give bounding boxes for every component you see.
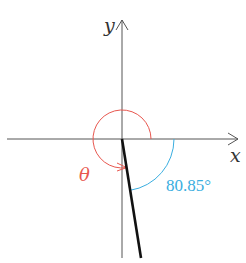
x-axis-label: x (230, 144, 241, 166)
terminal-side-line (122, 139, 141, 258)
reference-angle-label: 80.85° (166, 176, 211, 195)
theta-label: θ (79, 164, 90, 185)
angle-diagram: y x θ 80.85° (0, 0, 246, 263)
y-axis-label: y (103, 14, 115, 36)
